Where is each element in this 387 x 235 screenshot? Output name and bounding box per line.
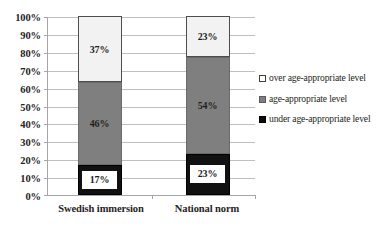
- bar-segment-label: 23%: [190, 165, 226, 183]
- legend-swatch-square-icon: [259, 75, 266, 82]
- bar-segment-label: 23%: [198, 31, 218, 42]
- bar-segment-over-age-appropriate[interactable]: 23%: [186, 16, 230, 57]
- stacked-bar-chart: 100% 90% 80% 70% 60% 50% 40% 30% 20% 10%…: [0, 0, 387, 235]
- y-tick-label-80: 80%: [0, 47, 41, 58]
- legend-swatch-square-icon: [259, 96, 266, 103]
- bar-segment-under-age-appropriate[interactable]: 17%: [78, 165, 122, 195]
- x-tickmark-2: [255, 195, 256, 199]
- y-tick-label-0: 0%: [0, 191, 41, 202]
- y-tickmark-40: [44, 124, 48, 125]
- y-tick-label-90: 90%: [0, 29, 41, 40]
- legend-item-under-age-appropriate[interactable]: under age-appropriate level: [259, 113, 385, 125]
- x-tickmark-1: [152, 195, 153, 199]
- bar-segment-label: 54%: [198, 100, 218, 111]
- y-tick-label-10: 10%: [0, 173, 41, 184]
- y-tickmark-50: [44, 107, 48, 108]
- bar-segment-label: 46%: [90, 118, 110, 129]
- y-tick-label-70: 70%: [0, 65, 41, 76]
- y-tickmark-60: [44, 89, 48, 90]
- bar-segment-age-appropriate[interactable]: 46%: [78, 82, 122, 164]
- y-tickmark-70: [44, 71, 48, 72]
- y-tick-label-40: 40%: [0, 119, 41, 130]
- y-tickmark-0: [44, 195, 48, 196]
- y-tick-label-20: 20%: [0, 155, 41, 166]
- bar-segment-label: 17%: [82, 171, 118, 189]
- x-axis-category-label-swedish-immersion: Swedish immersion: [46, 203, 156, 215]
- y-tick-label-100: 100%: [0, 12, 41, 23]
- y-tick-label-60: 60%: [0, 83, 41, 94]
- legend-item-label: under age-appropriate level: [269, 113, 370, 125]
- legend-item-label: over age-appropriate level: [269, 72, 366, 84]
- legend-swatch-square-icon: [259, 116, 266, 123]
- y-tickmark-80: [44, 53, 48, 54]
- bar-segment-age-appropriate[interactable]: 54%: [186, 57, 230, 154]
- y-tickmark-90: [44, 35, 48, 36]
- legend-item-label: age-appropriate level: [269, 93, 347, 105]
- legend-item-over-age-appropriate[interactable]: over age-appropriate level: [259, 72, 385, 84]
- legend: over age-appropriate level age-appropria…: [259, 72, 385, 134]
- legend-item-age-appropriate[interactable]: age-appropriate level: [259, 93, 385, 105]
- y-tickmark-30: [44, 142, 48, 143]
- y-axis: 100% 90% 80% 70% 60% 50% 40% 30% 20% 10%…: [0, 10, 44, 210]
- y-tick-label-30: 30%: [0, 137, 41, 148]
- plot-area: 37% 46% 17% 23% 54% 23%: [47, 17, 255, 196]
- bar-segment-under-age-appropriate[interactable]: 23%: [186, 154, 230, 195]
- y-tickmark-100: [44, 17, 48, 18]
- x-axis-category-label-national-norm: National norm: [155, 203, 259, 215]
- y-tickmark-10: [44, 178, 48, 179]
- bar-segment-over-age-appropriate[interactable]: 37%: [78, 16, 122, 82]
- y-tickmark-20: [44, 160, 48, 161]
- y-tick-label-50: 50%: [0, 101, 41, 112]
- bar-segment-label: 37%: [90, 44, 110, 55]
